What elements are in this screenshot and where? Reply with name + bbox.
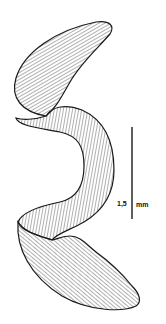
upper-lobe (14, 22, 111, 116)
specimen-drawing (0, 0, 166, 324)
lower-lobe (18, 222, 140, 310)
specimen-figure: 1,5 mm (0, 0, 166, 324)
middle-band (16, 107, 114, 240)
scale-bar-value: 1,5 (117, 200, 127, 207)
scale-bar-unit: mm (136, 201, 148, 208)
